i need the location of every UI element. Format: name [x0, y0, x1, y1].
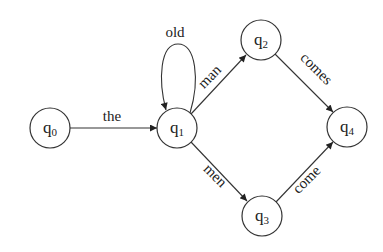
state-q3: q3 [242, 196, 282, 236]
state-q0: q0 [30, 108, 70, 148]
edge-label-come: come [289, 162, 324, 197]
edge-labels: the old man men comes come [103, 24, 336, 197]
state-q1: q1 [157, 108, 197, 148]
edge-label-the: the [103, 108, 122, 124]
edge-label-old: old [165, 24, 185, 40]
edge-label-men: men [201, 161, 231, 191]
edge-label-man: man [195, 61, 225, 91]
state-q2: q2 [241, 20, 281, 60]
fsa-diagram: the old man men comes come q0 q1 q2 q3 q… [0, 0, 383, 252]
state-q4: q4 [327, 107, 367, 147]
edge-q1-q1-loop [162, 44, 196, 113]
